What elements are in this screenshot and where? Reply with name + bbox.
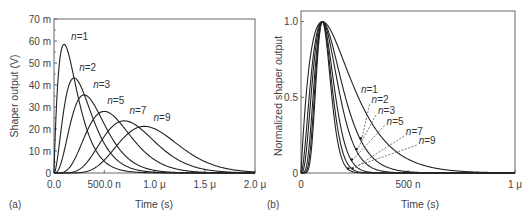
y-tick-label: 50 m xyxy=(29,58,51,69)
arrowhead-icon xyxy=(351,158,354,161)
y-tick-label: 0 xyxy=(292,168,298,179)
y-tick-label: 20 m xyxy=(29,124,51,135)
y-axis-title-a: Shaper output (V) xyxy=(8,55,20,138)
x-tick-label: 500 n xyxy=(395,179,420,190)
y-tick-label: 1.0 xyxy=(284,16,298,27)
arrowhead-icon xyxy=(347,167,350,170)
curve-n7 xyxy=(301,22,515,173)
arrowhead-icon xyxy=(360,137,363,140)
y-tick-label: 70 m xyxy=(29,14,51,25)
x-tick-label: 1 μ xyxy=(508,179,522,190)
x-tick-label: 0 xyxy=(298,179,304,190)
curve-label-n2: n=2 xyxy=(372,94,389,105)
curve-label-n1: n=1 xyxy=(71,31,88,42)
curve-n3 xyxy=(54,95,255,173)
curve-label-n2: n=2 xyxy=(79,62,96,73)
y-tick-label: 60 m xyxy=(29,36,51,47)
y-tick-label: 40 m xyxy=(29,80,51,91)
y-tick-label: 0 xyxy=(45,168,51,179)
chart-panel-b: 00.51.0 0500 n1 μ n=1n=2n=3n=5n=7n=9 Nor… xyxy=(267,11,522,210)
arrowhead-icon xyxy=(355,148,358,151)
curves-b xyxy=(301,22,515,173)
leader-line-n5 xyxy=(353,126,385,160)
x-tick-label: 0.0 xyxy=(47,179,61,190)
y-tick-label: 30 m xyxy=(29,102,51,113)
curve-label-n1: n=1 xyxy=(361,84,378,95)
chart-panel-a: 010 m20 m30 m40 m50 m60 m70 m 0.0500.0 n… xyxy=(8,14,266,211)
panel-label-a: (a) xyxy=(9,199,21,210)
x-axis-title-a: Time (s) xyxy=(135,198,173,210)
y-axis-title-b: Normalized shaper output xyxy=(272,36,284,156)
x-tick-label: 1.0 μ xyxy=(143,179,166,190)
curve-label-n3: n=3 xyxy=(378,105,395,116)
plot-frame-a xyxy=(54,19,255,173)
curve-label-n5: n=5 xyxy=(107,95,124,106)
y-tick-label: 0.5 xyxy=(284,92,298,103)
x-tick-label: 500.0 n xyxy=(88,179,121,190)
curve-label-n3: n=3 xyxy=(93,79,110,90)
panel-label-b: (b) xyxy=(267,199,279,210)
y-axis-a: 010 m20 m30 m40 m50 m60 m70 m xyxy=(29,14,57,179)
curve-n2 xyxy=(54,78,255,173)
y-tick-label: 10 m xyxy=(29,146,51,157)
curve-labels-a: n=1n=2n=3n=5n=7n=9 xyxy=(71,31,171,123)
curve-label-n9: n=9 xyxy=(153,112,170,123)
curve-label-n5: n=5 xyxy=(387,116,404,127)
x-tick-label: 1.5 μ xyxy=(194,179,217,190)
x-tick-label: 2.0 μ xyxy=(244,179,267,190)
figure: 010 m20 m30 m40 m50 m60 m70 m 0.0500.0 n… xyxy=(0,0,532,222)
leader-line-n3 xyxy=(358,115,376,149)
x-axis-title-b: Time (s) xyxy=(401,198,439,210)
curve-label-n9: n=9 xyxy=(419,135,436,146)
curve-label-n7: n=7 xyxy=(129,105,146,116)
